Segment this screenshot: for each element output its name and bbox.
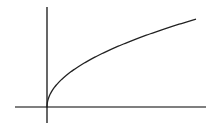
sqrt-curve — [47, 19, 196, 107]
sqrt-plot — [0, 0, 220, 127]
